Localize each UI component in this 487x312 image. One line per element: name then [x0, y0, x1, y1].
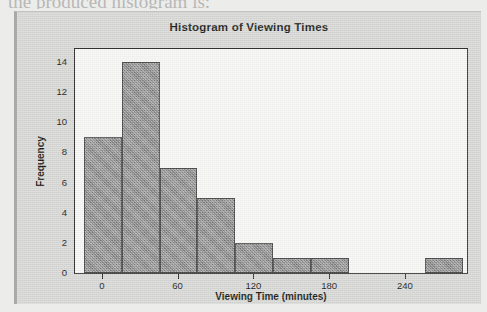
histogram-bar [425, 258, 463, 273]
x-axis-tick-label: 60 [158, 280, 198, 291]
x-axis-tick-label: 180 [309, 280, 349, 291]
y-axis-tick-label: 10 [56, 116, 67, 127]
y-axis-tick-label: 4 [62, 207, 67, 218]
x-axis-tick-mark [102, 274, 103, 279]
x-axis-tick-mark [329, 274, 330, 279]
y-axis-tick-label: 14 [56, 56, 67, 67]
histogram-bar [273, 258, 311, 273]
cut-off-text-above-figure: the produced histogram is: [8, 0, 308, 9]
histogram-bar [122, 62, 160, 273]
x-axis-tick-label: 240 [385, 280, 425, 291]
y-axis-tick-label: 0 [62, 267, 67, 278]
histogram-bar [235, 243, 273, 273]
y-axis: 02468101214 [17, 48, 74, 274]
y-axis-tick-label: 2 [62, 237, 67, 248]
histogram-bars [75, 49, 467, 273]
x-axis-tick-mark [253, 274, 254, 279]
y-axis-tick-label: 6 [62, 177, 67, 188]
histogram-bar [311, 258, 349, 273]
x-axis-tick-mark [178, 274, 179, 279]
histogram-bar [197, 198, 235, 273]
x-axis-tick-mark [405, 274, 406, 279]
histogram-bar [84, 137, 122, 273]
x-axis-tick-label: 120 [233, 280, 273, 291]
histogram-bar [160, 168, 198, 273]
histogram-figure: Histogram of Viewing Times Frequency 024… [14, 11, 481, 304]
x-axis-title: Viewing Time (minutes) [74, 291, 468, 302]
plot-area [74, 48, 468, 274]
x-axis-tick-label: 0 [82, 280, 122, 291]
y-axis-tick-label: 8 [62, 146, 67, 157]
chart-title: Histogram of Viewing Times [17, 21, 481, 33]
y-axis-tick-label: 12 [56, 86, 67, 97]
figure-page: the produced histogram is: Histogram of … [0, 0, 487, 312]
